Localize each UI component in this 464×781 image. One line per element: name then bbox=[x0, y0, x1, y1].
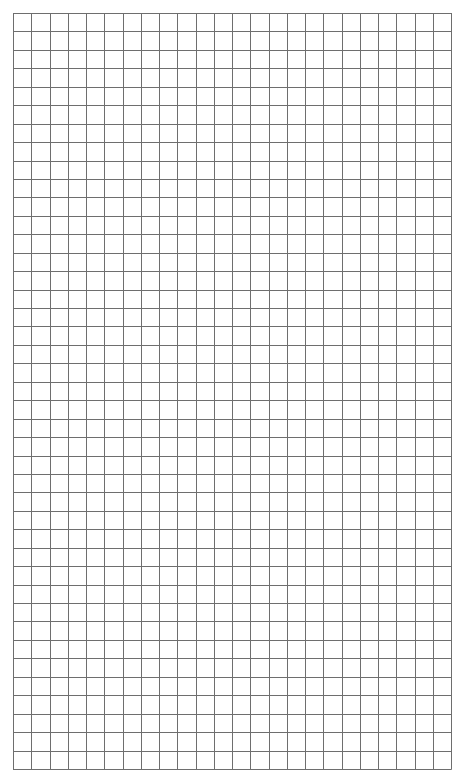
graph-paper-grid bbox=[13, 13, 452, 770]
